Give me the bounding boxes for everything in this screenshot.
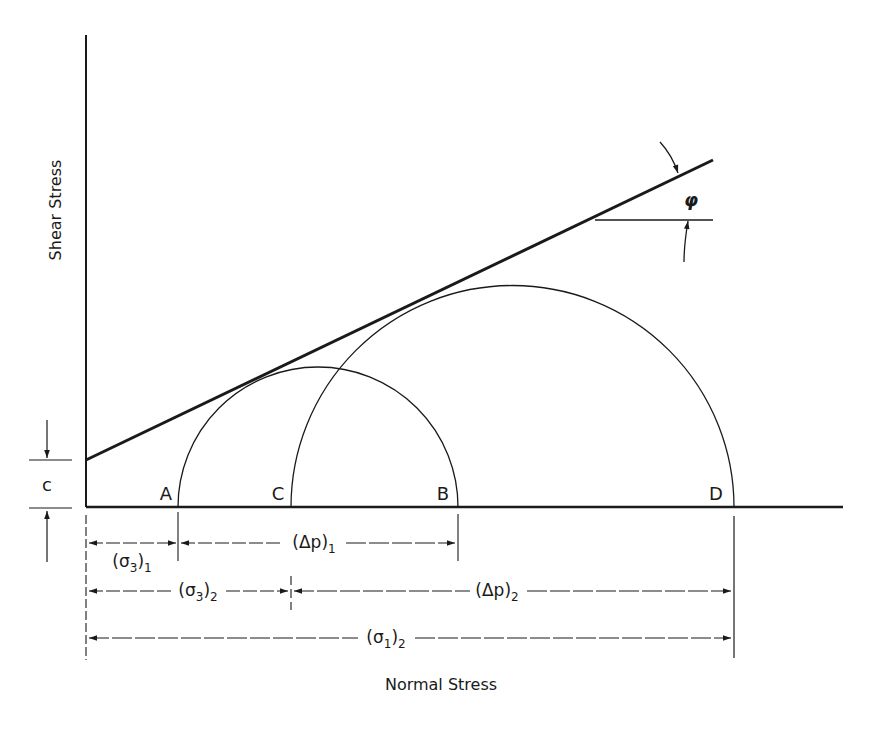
- point-c-label: C: [272, 483, 285, 504]
- dp-1-label: (Δp)1: [292, 532, 335, 556]
- cohesion-label: c: [42, 474, 52, 495]
- failure-envelope: [86, 160, 713, 460]
- sigma1-2-label: (σ1)2: [366, 627, 405, 651]
- y-axis-label: Shear Stress: [46, 160, 65, 261]
- point-d-label: D: [709, 483, 723, 504]
- mohr-circle-2: [291, 286, 734, 508]
- point-b-label: B: [437, 483, 449, 504]
- phi-arrow-bottom-icon: [684, 221, 688, 262]
- x-axis-label: Normal Stress: [385, 675, 497, 694]
- mohr-circle-1: [178, 367, 458, 507]
- dp-2-label: (Δp)2: [475, 580, 518, 604]
- phi-arrow-top-icon: [660, 142, 678, 173]
- mohr-circle-diagram: Shear Stress Normal Stress φ c A C B D (…: [0, 0, 883, 733]
- sigma3-1-label: (σ3)1: [112, 551, 151, 575]
- phi-label: φ: [684, 189, 698, 210]
- point-a-label: A: [160, 483, 173, 504]
- sigma3-2-label: (σ3)2: [178, 580, 217, 604]
